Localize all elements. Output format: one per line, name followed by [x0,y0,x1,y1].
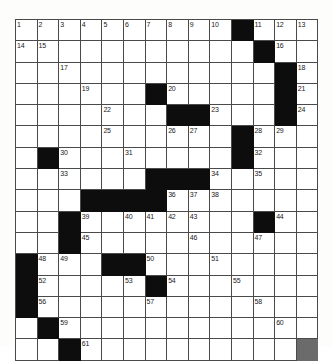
grid-cell[interactable] [16,63,38,84]
grid-cell[interactable] [16,84,38,105]
grid-cell[interactable] [59,105,81,126]
grid-cell[interactable] [210,276,232,297]
grid-cell[interactable]: 44 [275,212,297,233]
grid-cell[interactable] [59,84,81,105]
grid-cell[interactable]: 38 [210,190,232,211]
grid-cell[interactable]: 20 [167,84,189,105]
grid-cell[interactable]: 28 [254,126,276,147]
grid-cell[interactable]: 21 [297,84,319,105]
grid-cell[interactable]: 51 [210,254,232,275]
grid-cell[interactable]: 9 [189,20,211,41]
grid-cell[interactable]: 31 [124,148,146,169]
grid-cell[interactable] [167,297,189,318]
grid-cell[interactable]: 18 [297,63,319,84]
grid-cell[interactable] [254,276,276,297]
grid-cell[interactable]: 6 [124,20,146,41]
grid-cell[interactable] [189,41,211,62]
grid-cell[interactable] [38,212,60,233]
grid-cell[interactable] [16,190,38,211]
grid-cell[interactable]: 12 [275,20,297,41]
grid-cell[interactable] [167,254,189,275]
grid-cell[interactable] [254,254,276,275]
grid-cell[interactable]: 45 [81,233,103,254]
grid-cell[interactable]: 46 [189,233,211,254]
grid-cell[interactable] [232,169,254,190]
grid-cell[interactable] [232,318,254,339]
grid-cell[interactable] [189,297,211,318]
grid-cell[interactable]: 11 [254,20,276,41]
grid-cell[interactable]: 59 [59,318,81,339]
grid-cell[interactable] [297,212,319,233]
crossword-grid[interactable]: 1234567891011121314151617181920212223242… [15,19,318,361]
grid-cell[interactable] [254,105,276,126]
grid-cell[interactable]: 17 [59,63,81,84]
grid-cell[interactable] [232,105,254,126]
grid-cell[interactable] [297,297,319,318]
grid-cell[interactable] [59,190,81,211]
grid-cell[interactable] [275,254,297,275]
grid-cell[interactable]: 14 [16,41,38,62]
grid-cell[interactable] [210,339,232,360]
grid-cell[interactable] [297,233,319,254]
grid-cell[interactable] [297,41,319,62]
grid-cell[interactable]: 39 [81,212,103,233]
grid-cell[interactable] [232,190,254,211]
grid-cell[interactable] [232,254,254,275]
grid-cell[interactable] [210,212,232,233]
grid-cell[interactable] [38,105,60,126]
grid-cell[interactable]: 54 [167,276,189,297]
grid-cell[interactable] [232,339,254,360]
grid-cell[interactable] [102,148,124,169]
grid-cell[interactable] [16,233,38,254]
grid-cell[interactable] [254,84,276,105]
grid-cell[interactable] [102,63,124,84]
grid-cell[interactable] [124,318,146,339]
grid-cell[interactable] [167,318,189,339]
grid-cell[interactable]: 25 [102,126,124,147]
grid-cell[interactable] [38,233,60,254]
grid-cell[interactable]: 52 [38,276,60,297]
grid-cell[interactable]: 23 [210,105,232,126]
grid-cell[interactable] [59,41,81,62]
grid-cell[interactable] [167,339,189,360]
grid-cell[interactable] [16,105,38,126]
grid-cell[interactable] [81,105,103,126]
grid-cell[interactable] [297,148,319,169]
grid-cell[interactable] [275,233,297,254]
grid-cell[interactable] [210,63,232,84]
grid-cell[interactable] [254,318,276,339]
grid-cell[interactable] [124,297,146,318]
grid-cell[interactable]: 58 [254,297,276,318]
grid-cell[interactable] [254,190,276,211]
grid-cell[interactable] [210,318,232,339]
grid-cell[interactable]: 61 [81,339,103,360]
grid-cell[interactable] [16,212,38,233]
grid-cell[interactable] [124,84,146,105]
grid-cell[interactable] [81,297,103,318]
grid-cell[interactable] [124,169,146,190]
grid-cell[interactable] [59,276,81,297]
grid-cell[interactable] [275,276,297,297]
grid-cell[interactable] [124,41,146,62]
grid-cell[interactable] [232,233,254,254]
grid-cell[interactable] [210,126,232,147]
grid-cell[interactable] [102,233,124,254]
grid-cell[interactable]: 2 [38,20,60,41]
grid-cell[interactable] [189,254,211,275]
grid-cell[interactable]: 16 [275,41,297,62]
grid-cell[interactable] [297,169,319,190]
grid-cell[interactable] [16,169,38,190]
grid-cell[interactable] [297,318,319,339]
grid-cell[interactable]: 55 [232,276,254,297]
grid-cell[interactable] [275,190,297,211]
grid-cell[interactable] [102,212,124,233]
grid-cell[interactable]: 8 [167,20,189,41]
grid-cell[interactable] [38,169,60,190]
grid-cell[interactable]: 35 [254,169,276,190]
grid-cell[interactable] [210,297,232,318]
grid-cell[interactable] [102,169,124,190]
grid-cell[interactable] [102,297,124,318]
grid-cell[interactable] [124,126,146,147]
grid-cell[interactable] [297,254,319,275]
grid-cell[interactable]: 4 [81,20,103,41]
